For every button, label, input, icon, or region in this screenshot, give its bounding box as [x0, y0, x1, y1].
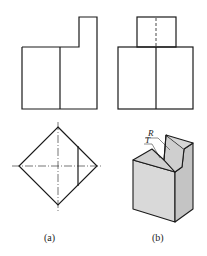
top-view-a	[12, 122, 103, 211]
technical-drawing: R T (a) (b)	[0, 0, 207, 256]
caption-b: (b)	[152, 232, 164, 244]
isometric-block-b	[133, 135, 193, 222]
front-view-a	[22, 17, 97, 109]
side-view-b	[118, 17, 193, 109]
caption-a: (a)	[44, 232, 55, 244]
